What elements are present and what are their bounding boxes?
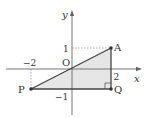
point-q [109,87,113,91]
origin-label: O [62,57,70,68]
point-a [109,46,113,50]
point-p [29,87,33,91]
point-label-q: Q [114,84,122,95]
coordinate-diagram: y x O 1 −1 −2 2 A P Q [0,0,149,118]
tick-label-x-neg2: −2 [23,58,36,68]
point-label-a: A [113,42,122,53]
point-label-p: P [18,84,25,95]
x-axis-label: x [134,73,140,84]
y-axis-label: y [61,9,68,20]
x-axis-arrow-icon [136,67,142,71]
tick-label-y-neg1: −1 [55,92,68,102]
tick-label-x-2: 2 [114,72,120,82]
tick-label-y-1: 1 [63,44,69,54]
y-axis-arrow-icon [70,10,74,16]
